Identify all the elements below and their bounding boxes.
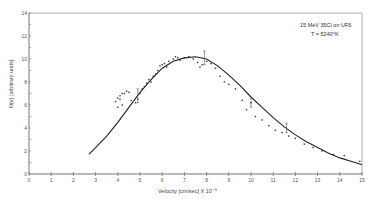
data-point xyxy=(164,63,165,64)
x-tick-label: 7 xyxy=(183,177,186,183)
data-point xyxy=(148,79,149,80)
data-point xyxy=(119,95,120,96)
y-tick-label: 4 xyxy=(24,125,27,131)
x-tick-label: 9 xyxy=(227,177,230,183)
data-point xyxy=(288,135,289,136)
data-point xyxy=(193,58,194,59)
x-tick-label: 8 xyxy=(205,177,208,183)
data-point xyxy=(201,64,202,65)
data-point xyxy=(168,61,169,62)
data-point xyxy=(144,86,145,87)
data-point xyxy=(295,138,296,139)
x-tick-label: 15 xyxy=(359,177,365,183)
data-point xyxy=(122,104,123,105)
data-point xyxy=(162,64,163,65)
data-point xyxy=(304,143,305,144)
y-tick-label: 10 xyxy=(21,56,27,62)
y-tick-label: 14 xyxy=(21,10,27,16)
data-point xyxy=(150,81,151,82)
data-point xyxy=(359,161,360,162)
data-point xyxy=(139,93,140,94)
data-point xyxy=(224,81,225,82)
plot-frame xyxy=(29,13,362,174)
data-point xyxy=(157,70,158,71)
x-tick-label: 2 xyxy=(72,177,75,183)
data-point xyxy=(177,57,178,58)
x-tick-label: 11 xyxy=(271,177,276,183)
data-point xyxy=(155,73,156,74)
y-tick-label: 8 xyxy=(24,79,27,85)
data-point xyxy=(241,100,242,101)
data-point xyxy=(166,66,167,67)
chart: 0123456789101112131415 02468101214 Veloc… xyxy=(0,0,375,201)
annotation-line2: T = 5240°K xyxy=(311,31,339,37)
fit-curve xyxy=(89,57,362,165)
data-point xyxy=(173,58,174,59)
data-point xyxy=(122,93,123,94)
data-point xyxy=(210,63,211,64)
data-point xyxy=(188,56,189,57)
x-tick-label: 4 xyxy=(116,177,119,183)
data-point xyxy=(246,109,247,110)
x-tick-label: 1 xyxy=(50,177,53,183)
data-point xyxy=(215,68,216,69)
data-point xyxy=(130,100,131,101)
data-point xyxy=(206,61,207,62)
y-tick-label: 0 xyxy=(24,171,27,177)
data-point xyxy=(199,66,200,67)
data-point xyxy=(235,88,236,89)
data-point xyxy=(119,99,120,100)
data-points xyxy=(115,56,361,162)
x-tick-label: 6 xyxy=(161,177,164,183)
data-point xyxy=(159,65,160,66)
data-point xyxy=(275,130,276,131)
data-point xyxy=(117,97,118,98)
x-tick-label: 10 xyxy=(248,177,254,183)
y-tick-label: 12 xyxy=(21,33,27,39)
data-point xyxy=(124,93,125,94)
data-point xyxy=(179,59,180,60)
y-tick-label: 2 xyxy=(24,148,27,154)
data-point xyxy=(184,57,185,58)
data-point xyxy=(135,102,136,103)
data-point xyxy=(250,102,251,103)
x-tick-label: 12 xyxy=(293,177,299,183)
x-tick-label: 13 xyxy=(315,177,321,183)
data-point xyxy=(261,119,262,120)
data-point xyxy=(115,101,116,102)
data-point xyxy=(197,62,198,63)
data-point xyxy=(146,82,147,83)
annotation-line1: 15 MeV 35Cl on UF6 xyxy=(300,22,351,28)
data-point xyxy=(255,116,256,117)
data-point xyxy=(344,155,345,156)
data-point xyxy=(321,150,322,151)
x-tick-label: 3 xyxy=(94,177,97,183)
y-ticks: 02468101214 xyxy=(21,10,31,177)
data-point xyxy=(332,154,333,155)
data-point xyxy=(219,76,220,77)
data-point xyxy=(228,84,229,85)
data-point xyxy=(153,76,154,77)
y-tick-label: 6 xyxy=(24,102,27,108)
data-point xyxy=(117,107,118,108)
data-point xyxy=(175,56,176,57)
x-tick-label: 0 xyxy=(28,177,31,183)
data-point xyxy=(281,132,282,133)
x-tick-label: 14 xyxy=(337,177,343,183)
error-bars xyxy=(137,51,288,133)
data-point xyxy=(137,99,138,100)
data-point xyxy=(268,125,269,126)
data-point xyxy=(312,147,313,148)
data-point xyxy=(142,88,143,89)
x-tick-label: 5 xyxy=(139,177,142,183)
data-point xyxy=(128,92,129,93)
data-point xyxy=(126,91,127,92)
y-axis-title: N(v) [arbitrary units] xyxy=(8,59,14,108)
x-axis-title: Velocity [cm/sec] X 10⁻⁸ xyxy=(158,188,217,194)
